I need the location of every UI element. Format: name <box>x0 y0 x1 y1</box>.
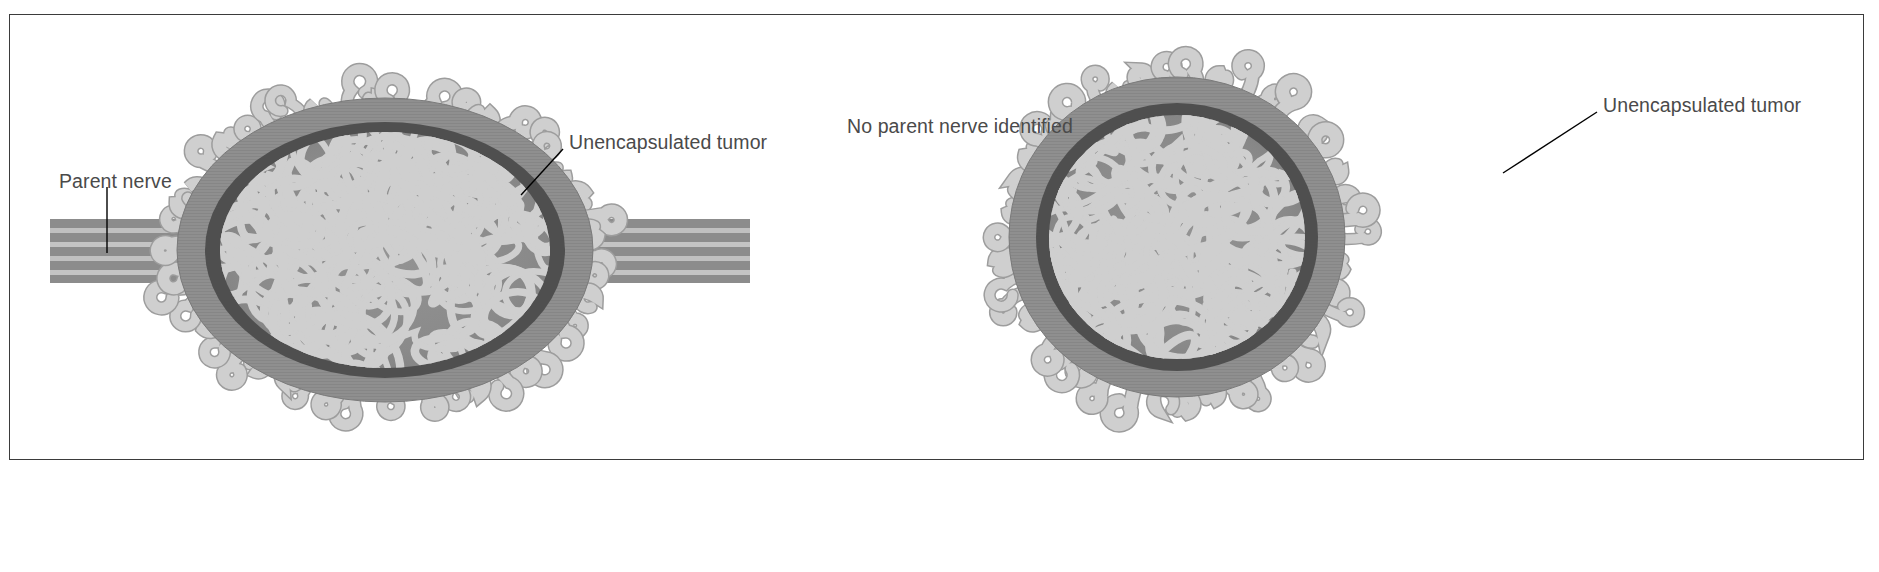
label-no-parent-nerve: No parent nerve identified <box>847 115 1073 138</box>
label-parent-nerve: Parent nerve <box>59 170 172 193</box>
leader-unencapsulated-tumor-left <box>521 149 563 195</box>
leader-unencapsulated-tumor-right <box>1503 112 1597 173</box>
figure-root: Parent nerve Unencapsulated tumor <box>0 0 1879 572</box>
panel-tumor-with-parent-nerve: Parent nerve Unencapsulated tumor <box>10 15 870 459</box>
figure-frame: Parent nerve Unencapsulated tumor <box>9 14 1864 460</box>
left-panel-leaders <box>10 15 870 461</box>
label-unencapsulated-tumor-left: Unencapsulated tumor <box>569 131 767 154</box>
label-unencapsulated-tumor-right: Unencapsulated tumor <box>1603 94 1801 117</box>
right-panel-leaders <box>870 15 1865 461</box>
panel-tumor-without-parent-nerve: No parent nerve identified Unencapsulate… <box>870 15 1865 459</box>
